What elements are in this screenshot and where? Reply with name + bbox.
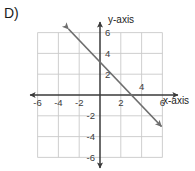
x-axis-title: x-axis: [163, 95, 189, 106]
y-tick-label: -6: [87, 152, 95, 163]
plotted-line: [69, 29, 162, 127]
x-tick-label: 2: [118, 97, 123, 108]
y-tick-label: -2: [87, 110, 95, 121]
y-axis-title: y-axis: [108, 14, 134, 25]
graph-figure: D): [0, 0, 195, 171]
x-tick-label: 4: [139, 81, 144, 92]
x-tick-label: -2: [75, 97, 83, 108]
y-tick-label: 4: [105, 48, 110, 59]
x-tick-label: -6: [33, 97, 41, 108]
choice-letter-label: D): [4, 6, 19, 20]
y-tick-label: -4: [87, 131, 95, 142]
y-tick-label: 2: [105, 69, 110, 80]
coordinate-plane-svg: -6 -4 -2 2 4 6 2 4 6 -2 -4 -6 y-axis x-a…: [0, 0, 195, 171]
x-tick-label: -4: [54, 97, 62, 108]
y-tick-label: 6: [105, 27, 110, 38]
